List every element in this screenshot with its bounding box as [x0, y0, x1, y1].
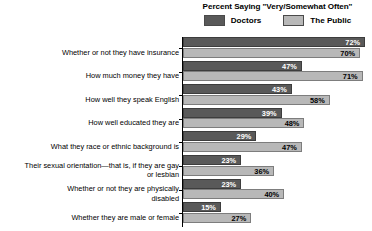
axis-tick — [179, 213, 182, 214]
bar-value-label: 70% — [340, 49, 355, 59]
bar-group: Whether or not they are physically disab… — [0, 179, 372, 200]
bar-the-public: 71% — [183, 71, 363, 81]
bar-chart: Percent Saying "Very/Somewhat Often" Doc… — [0, 0, 372, 231]
bar-the-public: 40% — [183, 189, 284, 199]
bar-the-public: 47% — [183, 142, 302, 152]
axis-tick — [179, 95, 182, 96]
bar-value-label: 72% — [345, 38, 360, 48]
bar-group: What they race or ethnic background is29… — [0, 131, 372, 152]
bar-group: Whether or not they have insurance72%70% — [0, 37, 372, 58]
bar-group: Their sexual orientation—that is, if the… — [0, 155, 372, 176]
axis-tick — [179, 119, 182, 120]
category-label: How well educated they are — [88, 118, 179, 127]
bar-value-label: 48% — [285, 119, 300, 129]
bar-the-public: 58% — [183, 95, 330, 105]
category-label: Their sexual orientation—that is, if the… — [25, 161, 179, 180]
axis-tick — [179, 166, 182, 167]
legend-item-public: The Public — [283, 15, 351, 26]
category-label: Whether or not they are physically disab… — [67, 184, 179, 203]
bar-value-label: 47% — [282, 143, 297, 153]
legend-label-public: The Public — [310, 16, 351, 25]
bar-value-label: 27% — [232, 214, 247, 224]
bar-value-label: 23% — [221, 180, 236, 190]
bar-value-label: 36% — [254, 167, 269, 177]
category-label: Whether or not they have insurance — [62, 48, 179, 57]
bar-doctors: 43% — [183, 84, 292, 94]
legend-label-doctors: Doctors — [231, 16, 262, 25]
chart-title: Percent Saying "Very/Somewhat Often" — [183, 2, 372, 12]
category-label: How much money they have — [86, 71, 179, 80]
bar-doctors: 72% — [183, 37, 365, 47]
axis-tick — [179, 72, 182, 73]
bar-value-label: 15% — [201, 203, 216, 213]
legend-item-doctors: Doctors — [204, 15, 262, 26]
plot-area: Whether or not they have insurance72%70%… — [0, 33, 372, 231]
bar-value-label: 43% — [272, 85, 287, 95]
bar-group: How well educated they are39%48% — [0, 108, 372, 129]
bar-doctors: 15% — [183, 202, 221, 212]
bar-the-public: 48% — [183, 118, 304, 128]
bar-doctors: 23% — [183, 179, 241, 189]
bar-doctors: 47% — [183, 61, 302, 71]
legend-swatch-doctors — [204, 15, 225, 26]
bar-value-label: 23% — [221, 156, 236, 166]
bar-value-label: 71% — [343, 72, 358, 82]
category-label: Whether they are male or female — [71, 213, 179, 222]
legend-entries: Doctors The Public — [183, 15, 372, 26]
bar-group: Whether they are male or female15%27% — [0, 202, 372, 223]
axis-tick — [179, 48, 182, 49]
bar-value-label: 39% — [262, 109, 277, 119]
chart-legend: Percent Saying "Very/Somewhat Often" Doc… — [183, 2, 372, 26]
bar-value-label: 40% — [264, 190, 279, 200]
bar-the-public: 27% — [183, 213, 251, 223]
axis-tick — [179, 190, 182, 191]
bar-doctors: 29% — [183, 131, 256, 141]
category-label: How well they speak English — [85, 95, 179, 104]
bar-group: How well they speak English43%58% — [0, 84, 372, 105]
bar-doctors: 39% — [183, 108, 282, 118]
bar-the-public: 36% — [183, 166, 274, 176]
bar-the-public: 70% — [183, 48, 360, 58]
bar-value-label: 29% — [237, 132, 252, 142]
bar-value-label: 47% — [282, 62, 297, 72]
category-label: What they race or ethnic background is — [51, 142, 179, 151]
legend-swatch-public — [283, 15, 304, 26]
axis-tick — [179, 142, 182, 143]
bar-value-label: 58% — [310, 96, 325, 106]
bar-doctors: 23% — [183, 155, 241, 165]
bar-group: How much money they have47%71% — [0, 61, 372, 82]
